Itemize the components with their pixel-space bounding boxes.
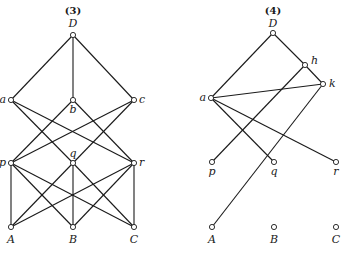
- node-label-k: k: [329, 77, 336, 90]
- node-D: [270, 30, 275, 35]
- node-b: [70, 97, 75, 102]
- node-a: [8, 97, 13, 102]
- node-label-q: q: [270, 165, 277, 178]
- diagram-3-edges: [11, 35, 134, 227]
- node-label-b: b: [69, 103, 76, 116]
- node-label-B: B: [68, 233, 77, 246]
- edge-D-c: [73, 35, 134, 100]
- node-c: [131, 97, 136, 102]
- node-label-B: B: [269, 233, 278, 246]
- node-C: [333, 224, 338, 229]
- node-label-C: C: [130, 233, 139, 246]
- node-label-D: D: [68, 17, 78, 30]
- edge-D-a: [211, 33, 273, 98]
- node-B: [70, 224, 75, 229]
- node-A: [209, 224, 214, 229]
- diagram-3: DabcpqrABC (3): [0, 5, 145, 246]
- node-D: [70, 32, 75, 37]
- node-label-C: C: [332, 233, 341, 246]
- node-label-a: a: [199, 91, 206, 104]
- node-h: [302, 62, 307, 67]
- node-label-r: r: [139, 156, 145, 169]
- node-label-A: A: [6, 233, 15, 246]
- node-p: [209, 159, 214, 164]
- node-label-q: q: [69, 147, 76, 160]
- node-A: [8, 224, 13, 229]
- edge-a-k: [211, 84, 323, 98]
- node-B: [271, 224, 276, 229]
- node-label-p: p: [208, 165, 215, 178]
- node-k: [320, 81, 325, 86]
- node-p: [8, 160, 13, 165]
- edge-D-h: [273, 33, 305, 65]
- node-label-c: c: [139, 93, 145, 106]
- diagram-4-title: (4): [265, 5, 281, 16]
- node-C: [131, 224, 136, 229]
- diagram-3-title: (3): [65, 5, 81, 16]
- node-r: [333, 159, 338, 164]
- node-label-h: h: [311, 54, 318, 67]
- edge-a-r: [211, 98, 336, 162]
- diagram-4-nodes: DhkapqrABC: [199, 17, 340, 246]
- node-label-D: D: [268, 17, 278, 30]
- edge-k-A: [212, 84, 323, 227]
- edge-h-k: [305, 65, 323, 84]
- lattice-diagrams: DabcpqrABC (3) DhkapqrABC (4): [0, 0, 342, 253]
- node-q: [271, 159, 276, 164]
- node-label-a: a: [0, 93, 6, 106]
- node-label-A: A: [207, 233, 216, 246]
- node-label-r: r: [333, 165, 339, 178]
- diagram-4: DhkapqrABC (4): [199, 5, 340, 246]
- node-q: [70, 160, 75, 165]
- edge-D-a: [11, 35, 73, 100]
- node-r: [131, 160, 136, 165]
- node-label-p: p: [0, 156, 6, 169]
- node-a: [208, 95, 213, 100]
